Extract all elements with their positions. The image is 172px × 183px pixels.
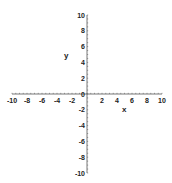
y-tick-label: 0 bbox=[81, 91, 85, 98]
x-tick-label: -6 bbox=[39, 97, 45, 104]
x-tick-label: -2 bbox=[69, 97, 75, 104]
y-tick-label: -8 bbox=[79, 154, 85, 161]
x-tick-label: 8 bbox=[145, 97, 149, 104]
x-tick-label: -8 bbox=[24, 97, 30, 104]
y-tick-label: -2 bbox=[79, 106, 85, 113]
x-tick-label: 10 bbox=[158, 97, 166, 104]
x-tick-label: -10 bbox=[7, 97, 17, 104]
y-tick-label: 4 bbox=[81, 59, 85, 66]
y-tick-label: -4 bbox=[79, 122, 85, 129]
y-tick-label: -10 bbox=[75, 170, 85, 177]
coordinate-plane: -10-8-6-4-2246810-10-8-6-4-20246810 x y bbox=[0, 0, 172, 183]
y-tick-label: 10 bbox=[77, 12, 85, 19]
y-tick-label: 6 bbox=[81, 43, 85, 50]
x-tick-label: -4 bbox=[54, 97, 60, 104]
x-axis-label: x bbox=[122, 105, 127, 114]
y-tick-label: 2 bbox=[81, 75, 85, 82]
y-tick-label: 8 bbox=[81, 27, 85, 34]
y-axis-label: y bbox=[64, 51, 69, 60]
x-tick-label: 6 bbox=[130, 97, 134, 104]
x-tick-label: 4 bbox=[115, 97, 119, 104]
ticks bbox=[12, 15, 162, 173]
y-tick-label: -6 bbox=[79, 138, 85, 145]
x-tick-label: 2 bbox=[100, 97, 104, 104]
